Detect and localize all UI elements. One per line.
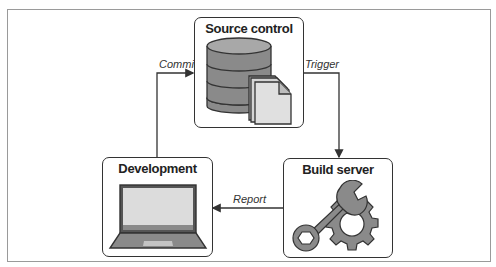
report-label: Report xyxy=(233,193,266,205)
trigger-label: Trigger xyxy=(305,58,339,70)
wrench-and-gear-icon xyxy=(290,180,386,254)
source-control-title: Source control xyxy=(195,21,303,36)
commit-arrow xyxy=(157,73,193,157)
commit-label: Commit xyxy=(159,58,197,70)
trigger-arrow xyxy=(303,73,339,157)
database-with-document-icon xyxy=(205,36,295,126)
development-title: Development xyxy=(103,161,212,176)
build-server-title: Build server xyxy=(284,162,392,177)
laptop-icon xyxy=(106,182,210,252)
